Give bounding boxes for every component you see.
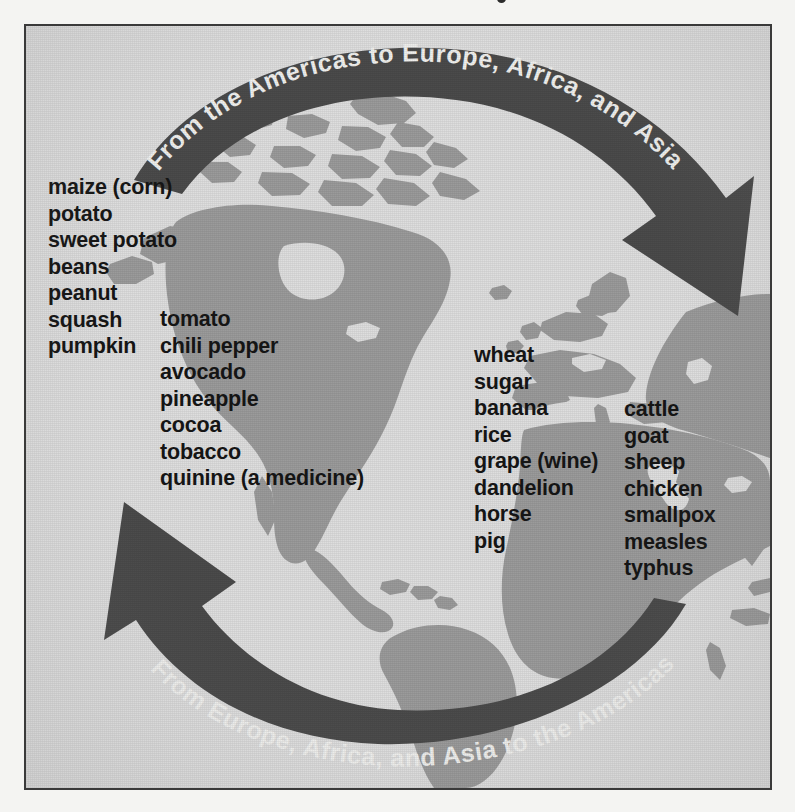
diagram-page: .sea { fill: #dedede !important; } From … [0, 0, 795, 812]
diagram-frame: .sea { fill: #dedede !important; } From … [24, 24, 772, 790]
scan-artifact-glyph [497, 0, 506, 3]
exchange-arrows: From the Americas to Europe, Africa, and… [26, 26, 770, 788]
